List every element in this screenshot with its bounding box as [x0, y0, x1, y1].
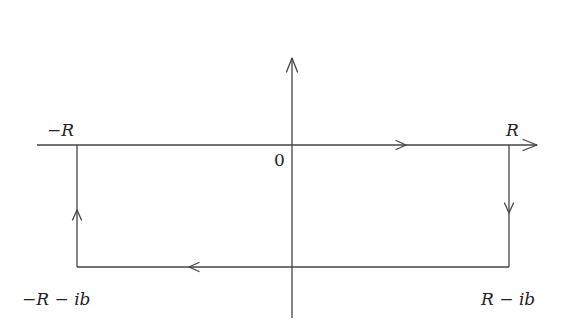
label-minus-r-minus-ib: −R − ib: [22, 289, 90, 309]
label-r-minus-ib: R − ib: [480, 289, 535, 309]
contour: [73, 141, 514, 272]
real-axis: [37, 140, 537, 151]
label-minus-r: −R: [47, 120, 74, 140]
label-origin: 0: [274, 150, 285, 170]
contour-diagram: −R R 0 −R − ib R − ib: [0, 0, 567, 331]
label-r: R: [505, 120, 519, 140]
imaginary-axis: [287, 58, 298, 318]
